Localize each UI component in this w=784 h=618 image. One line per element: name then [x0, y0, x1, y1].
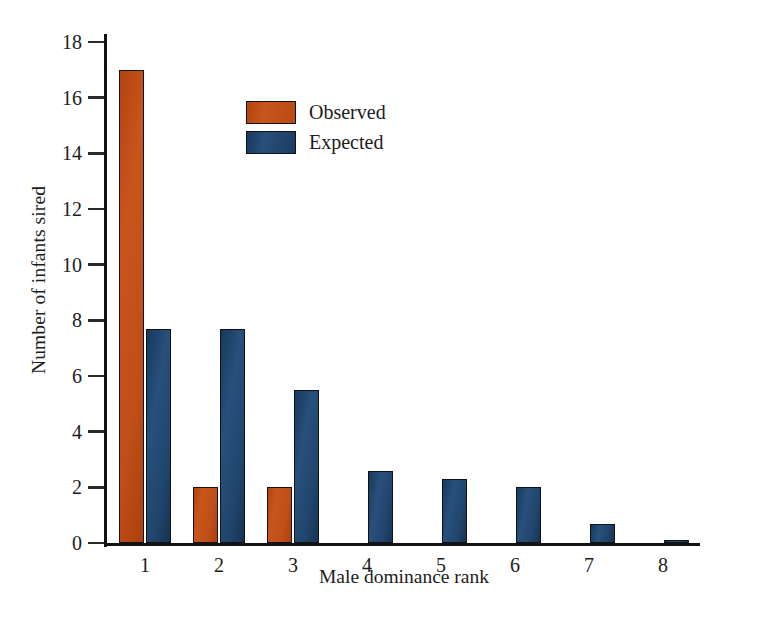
bar-chart: Number of infants sired 024681012141618 …	[0, 0, 784, 618]
bar-expected-rank-7	[590, 524, 615, 543]
y-tick-mark	[88, 263, 104, 266]
y-tick-label: 14	[40, 143, 82, 163]
y-tick-mark	[88, 319, 104, 322]
legend-swatch-expected	[246, 131, 296, 154]
y-axis-title: Number of infants sired	[18, 0, 60, 560]
bar-expected-rank-6	[516, 487, 541, 543]
legend-label-expected: Expected	[309, 132, 383, 152]
y-tick-mark	[88, 375, 104, 378]
y-tick-mark	[88, 208, 104, 211]
y-tick-mark	[88, 152, 104, 155]
x-axis-title: Male dominance rank	[108, 566, 700, 588]
chart-legend: ObservedExpected	[246, 97, 386, 157]
y-tick-mark	[88, 542, 104, 545]
y-tick-label: 12	[40, 199, 82, 219]
legend-item-expected: Expected	[246, 127, 386, 157]
bar-expected-rank-8	[664, 540, 689, 543]
bar-expected-rank-3	[294, 390, 319, 543]
legend-label-observed: Observed	[309, 102, 386, 122]
bar-expected-rank-5	[442, 479, 467, 543]
y-tick-label: 4	[40, 422, 82, 442]
y-tick-label: 6	[40, 366, 82, 386]
plot-area: 024681012141618 12345678	[108, 42, 700, 543]
y-tick-mark	[88, 41, 104, 44]
legend-swatch-observed	[246, 101, 296, 124]
y-tick-mark	[88, 486, 104, 489]
bar-observed-rank-2	[193, 487, 218, 543]
bar-observed-rank-1	[119, 70, 144, 543]
bar-expected-rank-1	[146, 329, 171, 543]
legend-item-observed: Observed	[246, 97, 386, 127]
bar-expected-rank-2	[220, 329, 245, 543]
y-tick-label: 2	[40, 477, 82, 497]
y-tick-label: 0	[40, 533, 82, 553]
y-tick-label: 18	[40, 32, 82, 52]
bar-expected-rank-4	[368, 471, 393, 543]
y-axis-line	[104, 34, 107, 547]
y-tick-mark	[88, 430, 104, 433]
y-tick-mark	[88, 96, 104, 99]
x-axis-line	[104, 543, 700, 546]
y-tick-label: 8	[40, 310, 82, 330]
bar-observed-rank-3	[267, 487, 292, 543]
y-tick-label: 16	[40, 88, 82, 108]
y-tick-label: 10	[40, 255, 82, 275]
